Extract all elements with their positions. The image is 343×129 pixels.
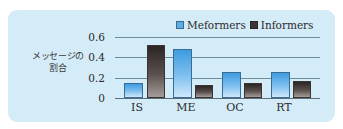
legend: Meformers Informers [176, 19, 314, 31]
bar-OC-informers [244, 83, 262, 98]
bar-ME-informers [195, 85, 213, 98]
plot-area: 0.6 0.4 0.2 0 [115, 37, 320, 98]
gridline-0.4 [115, 57, 320, 58]
y-tick-0.6: 0.6 [75, 32, 105, 42]
y-tick-0.4: 0.4 [75, 52, 105, 62]
bar-RT-meformers [271, 72, 290, 98]
x-tick-ME: ME [166, 101, 206, 114]
legend-label-informers: Informers [261, 19, 314, 31]
bar-ME-meformers [173, 49, 192, 98]
bar-IS-informers [147, 45, 165, 98]
bar-IS-meformers [124, 83, 143, 98]
bar-OC-meformers [222, 72, 241, 98]
x-tick-RT: RT [264, 101, 304, 114]
y-tick-0: 0 [75, 93, 105, 103]
x-axis-line [115, 98, 320, 99]
x-tick-OC: OC [215, 101, 255, 114]
legend-swatch-informers [250, 21, 258, 29]
legend-label-meformers: Meformers [187, 19, 246, 31]
x-tick-IS: IS [117, 101, 157, 114]
y-tick-0.2: 0.2 [75, 73, 105, 83]
bar-RT-informers [293, 81, 311, 98]
legend-swatch-meformers [176, 21, 184, 29]
gridline-0.6 [115, 37, 320, 38]
